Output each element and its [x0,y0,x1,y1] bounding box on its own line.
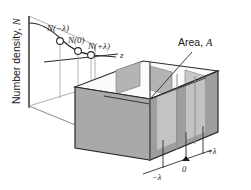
z-axis-label: z [119,50,124,60]
area-label: Area,A [178,36,213,48]
plane-interior-a [157,88,176,150]
marker-zero [75,48,82,55]
marker-plus-lambda [88,52,95,59]
marker-minus-lambda [57,38,64,45]
marker-label-minus-lambda: N(−λ) [46,23,69,33]
marker-label-zero: N(0) [67,35,85,45]
number-density-flux-diagram: Number density,N z N(−λ) N(0) N(+λ) [0,0,251,190]
marker-label-plus-lambda: N(+λ) [87,41,110,51]
scale-label-minus-lambda: −λ [152,172,162,182]
scale-label-plus-lambda: +λ [207,146,217,156]
y-axis-label: Number density,N [10,17,22,104]
